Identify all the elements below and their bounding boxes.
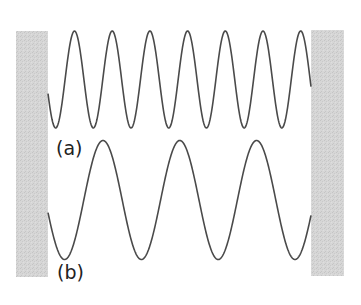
wave-b-label: (b)	[57, 261, 84, 283]
labels: (a)(b)	[56, 137, 84, 283]
left-wall	[16, 31, 48, 277]
wave-b	[48, 141, 311, 260]
right-wall	[311, 30, 344, 276]
standing-wave-diagram: (a)(b)	[0, 0, 361, 305]
waves	[48, 31, 311, 260]
wave-a	[48, 31, 311, 128]
wave-a-label: (a)	[56, 137, 82, 159]
